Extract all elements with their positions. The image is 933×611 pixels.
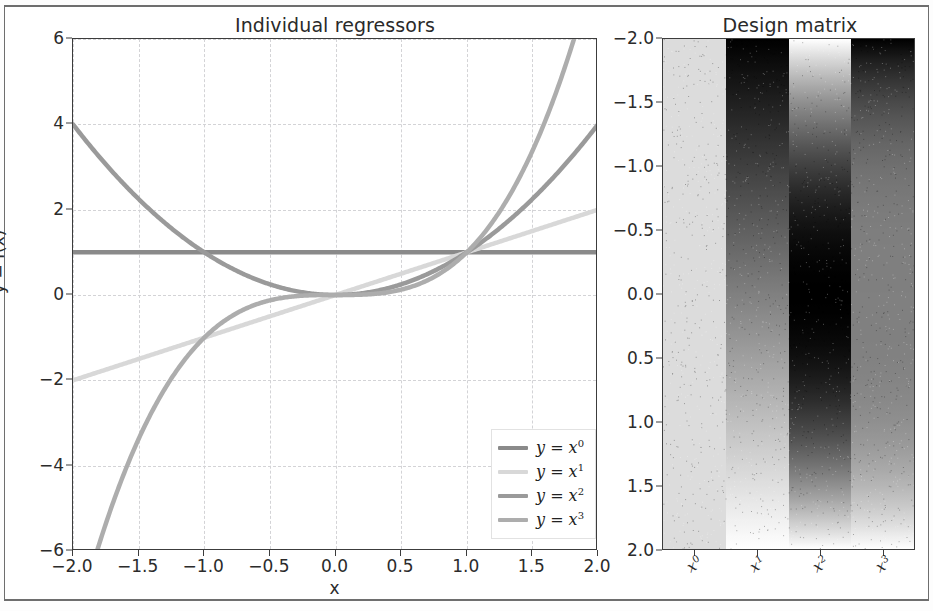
- design-matrix-x-tick-label: x1: [746, 553, 768, 577]
- legend-color-swatch: [498, 518, 528, 522]
- design-matrix-x-tick-label: x0: [683, 553, 705, 577]
- design-matrix-column-x3: [851, 39, 914, 549]
- y-axis-label: y = f(x): [0, 230, 8, 294]
- legend-label: y = x3: [536, 510, 584, 529]
- design-matrix-y-tick-mark: [656, 422, 662, 423]
- x-tick-label: −0.5: [239, 556, 299, 576]
- design-matrix-y-tick-label: −0.5: [600, 220, 654, 240]
- design-matrix-y-tick-label: 1.0: [600, 412, 654, 432]
- chart-legend: y = x0y = x1y = x2y = x3: [491, 429, 596, 539]
- x-axis-label: x: [72, 578, 597, 598]
- design-matrix-x-tick-exponent: 2: [816, 553, 827, 566]
- x-tick-mark: [269, 550, 270, 556]
- x-tick-mark: [335, 550, 336, 556]
- legend-item: y = x2: [498, 484, 588, 508]
- legend-item: y = x0: [498, 436, 588, 460]
- right-panel-title: Design matrix: [655, 14, 925, 36]
- legend-label: y = x2: [536, 486, 584, 505]
- legend-color-swatch: [498, 470, 528, 474]
- y-tick-label: 2: [12, 199, 64, 219]
- design-matrix-x-tick-exponent: 0: [690, 553, 701, 566]
- legend-color-swatch: [498, 446, 528, 450]
- design-matrix-column-x1: [726, 39, 789, 549]
- legend-label-exponent: 0: [578, 438, 584, 449]
- design-matrix-x-tick-label: x2: [809, 553, 831, 577]
- design-matrix-column-x0: [663, 39, 726, 549]
- x-tick-mark: [531, 550, 532, 556]
- figure-page: Individual regressors 6420−2−4−6 −2.0−1.…: [0, 0, 933, 611]
- legend-item: y = x1: [498, 460, 588, 484]
- design-matrix-x-tick-exponent: 3: [880, 553, 891, 566]
- y-tick-mark: [66, 38, 72, 39]
- y-tick-mark: [66, 123, 72, 124]
- design-matrix-y-tick-mark: [656, 38, 662, 39]
- legend-label: y = x0: [536, 438, 584, 457]
- design-matrix-y-tick-label: −2.0: [600, 28, 654, 48]
- left-panel-title: Individual regressors: [70, 14, 600, 36]
- design-matrix-y-tick-mark: [656, 230, 662, 231]
- legend-color-swatch: [498, 494, 528, 498]
- x-tick-mark: [72, 550, 73, 556]
- design-matrix-x-tick-exponent: 1: [753, 553, 764, 566]
- y-tick-mark: [66, 379, 72, 380]
- y-tick-mark: [66, 208, 72, 209]
- x-tick-label: −1.5: [108, 556, 168, 576]
- design-matrix-y-tick-label: −1.0: [600, 156, 654, 176]
- x-tick-label: −1.0: [173, 556, 233, 576]
- x-tick-mark: [203, 550, 204, 556]
- curve-y-x-2: [73, 124, 597, 295]
- design-matrix-y-tick-mark: [656, 358, 662, 359]
- y-tick-mark: [66, 464, 72, 465]
- design-matrix-y-tick-label: 0.5: [600, 348, 654, 368]
- y-tick-label: −4: [12, 455, 64, 475]
- legend-label-exponent: 1: [578, 462, 584, 473]
- legend-label-exponent: 2: [578, 486, 584, 497]
- x-tick-label: 0.0: [305, 556, 365, 576]
- design-matrix-y-tick-label: 1.5: [600, 476, 654, 496]
- y-tick-label: −2: [12, 369, 64, 389]
- y-tick-mark: [66, 294, 72, 295]
- design-matrix-x-tick-label: x3: [872, 553, 894, 577]
- x-tick-label: 1.5: [501, 556, 561, 576]
- design-matrix-y-tick-label: −1.5: [600, 92, 654, 112]
- x-tick-mark: [466, 550, 467, 556]
- legend-label-exponent: 3: [578, 510, 584, 521]
- legend-item: y = x3: [498, 508, 588, 532]
- design-matrix-panel: Design matrix −2.0−1.5−1.0−0.50.00.51.01…: [600, 8, 930, 593]
- y-tick-label: 4: [12, 113, 64, 133]
- x-tick-label: 1.0: [436, 556, 496, 576]
- design-matrix-heatmap: [662, 38, 915, 550]
- design-matrix-y-tick-mark: [656, 166, 662, 167]
- individual-regressors-panel: Individual regressors 6420−2−4−6 −2.0−1.…: [10, 8, 610, 593]
- x-tick-mark: [597, 550, 598, 556]
- y-tick-label: 6: [12, 28, 64, 48]
- legend-label: y = x1: [536, 462, 584, 481]
- design-matrix-column-x2: [789, 39, 852, 549]
- y-tick-label: 0: [12, 284, 64, 304]
- design-matrix-y-tick-mark: [656, 294, 662, 295]
- design-matrix-y-tick-label: 2.0: [600, 540, 654, 560]
- x-tick-mark: [138, 550, 139, 556]
- design-matrix-y-tick-label: 0.0: [600, 284, 654, 304]
- x-tick-label: 0.5: [370, 556, 430, 576]
- x-tick-mark: [400, 550, 401, 556]
- x-tick-label: −2.0: [42, 556, 102, 576]
- design-matrix-y-tick-mark: [656, 102, 662, 103]
- design-matrix-y-tick-mark: [656, 550, 662, 551]
- design-matrix-y-tick-mark: [656, 486, 662, 487]
